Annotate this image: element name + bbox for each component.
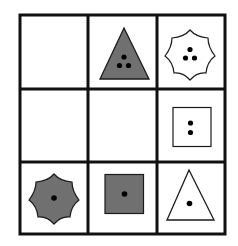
cell-r2-c2	[167, 170, 214, 220]
cell-r2-c1	[105, 175, 144, 214]
cell-r1-c1-empty	[90, 91, 156, 161]
cell-r1-c0-empty	[22, 91, 87, 161]
cell-r2-c0	[29, 174, 79, 224]
cell-r0-c1	[100, 28, 149, 79]
dots-1	[51, 195, 57, 201]
puzzle-grid	[0, 0, 238, 246]
white-triangle-shape	[167, 170, 214, 220]
cell-r1-c2	[173, 108, 211, 147]
cell-r0-c0-empty	[22, 17, 87, 88]
dots-1	[187, 201, 193, 207]
white-heptagon-shape	[165, 30, 215, 80]
cell-r0-c2	[165, 30, 215, 80]
dots-1	[122, 191, 128, 197]
gray-triangle-shape	[100, 28, 149, 79]
white-square-shape	[173, 108, 211, 147]
